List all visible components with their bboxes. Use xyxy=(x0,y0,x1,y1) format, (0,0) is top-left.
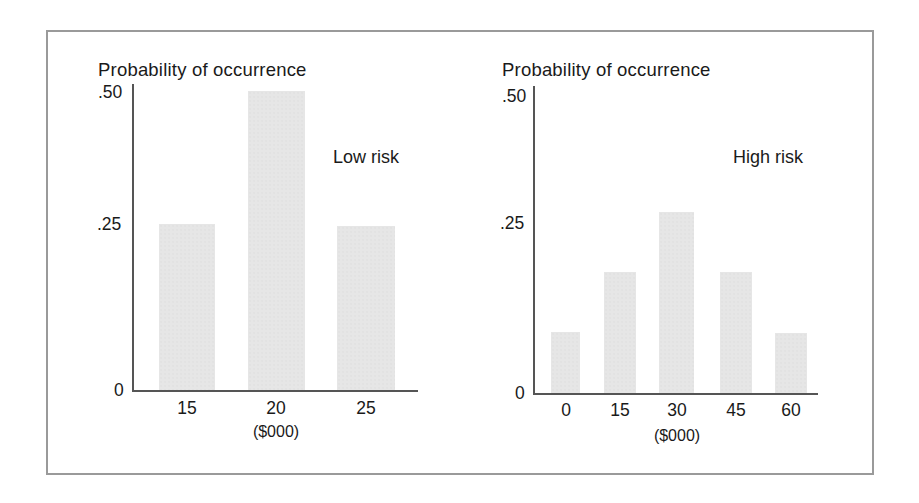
left-ytick-25: .25 xyxy=(97,214,121,235)
right-ytick-0: 0 xyxy=(515,383,525,404)
right-x-unit-label: ($000) xyxy=(654,427,700,445)
right-xtick-45: 45 xyxy=(726,400,745,421)
right-ytick-50: .50 xyxy=(502,86,526,107)
bar-high-0 xyxy=(551,332,580,393)
left-ytick-0: 0 xyxy=(114,380,124,401)
bar-high-30 xyxy=(659,212,694,393)
right-xtick-15: 15 xyxy=(610,400,629,421)
right-y-axis-title: Probability of occurrence xyxy=(502,59,711,81)
left-y-axis xyxy=(132,84,134,391)
right-y-axis xyxy=(533,86,535,394)
left-xtick-20: 20 xyxy=(266,398,285,419)
right-xtick-0: 0 xyxy=(561,400,571,421)
left-xtick-15: 15 xyxy=(177,398,196,419)
bar-low-15 xyxy=(159,224,215,390)
low-risk-label: Low risk xyxy=(333,147,399,168)
bar-high-45 xyxy=(720,272,752,393)
bar-high-60 xyxy=(775,333,807,393)
left-xtick-25: 25 xyxy=(356,398,375,419)
bar-low-20 xyxy=(248,91,305,390)
right-x-axis xyxy=(533,393,818,395)
left-y-axis-title: Probability of occurrence xyxy=(98,59,307,81)
right-ytick-25: .25 xyxy=(500,213,524,234)
right-xtick-30: 30 xyxy=(667,400,686,421)
left-x-unit-label: ($000) xyxy=(253,423,299,441)
left-ytick-50: .50 xyxy=(98,82,122,103)
right-xtick-60: 60 xyxy=(781,400,800,421)
bar-high-15 xyxy=(604,272,636,393)
left-x-axis xyxy=(132,390,418,392)
high-risk-label: High risk xyxy=(733,147,803,168)
bar-low-25 xyxy=(337,226,395,390)
